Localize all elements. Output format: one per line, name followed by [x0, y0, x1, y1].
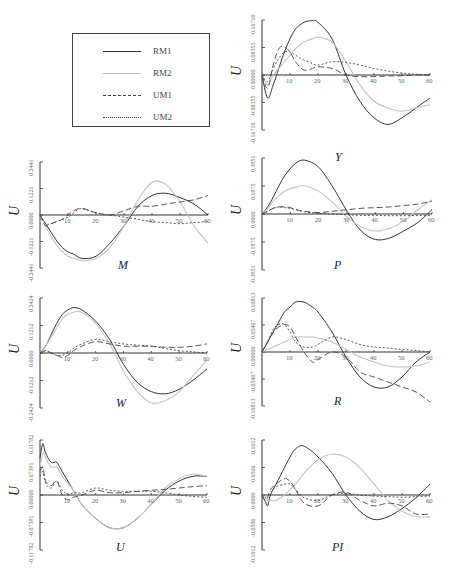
x-tick-label: 50: [398, 497, 405, 504]
x-tick-label: 10: [286, 354, 293, 361]
y-tick-label: -0.1012: [250, 546, 256, 565]
series-rm1: [262, 301, 430, 388]
x-tick-label: 20: [92, 217, 99, 224]
series-rm2: [262, 454, 430, 517]
x-tick-label: 30: [343, 216, 350, 223]
x-tick-label: 40: [370, 77, 377, 84]
y-tick-label: 0.1975: [250, 184, 256, 201]
panel-m: [40, 162, 208, 268]
x-tick-label: 40: [148, 217, 155, 224]
x-tick-label: 60: [203, 355, 210, 362]
y-tick-label: 0.11782: [28, 435, 34, 454]
y-tick-label: -0.16710: [250, 123, 256, 145]
x-tick-label: 50: [398, 354, 405, 361]
y-tick-label: -0.1212: [28, 376, 34, 395]
x-tick-label: 40: [147, 355, 154, 362]
panel-p: [262, 158, 432, 270]
y-tick-label: -0.11782: [28, 543, 34, 564]
y-axis-label: U: [229, 66, 245, 76]
x-tick-label: 20: [315, 216, 322, 223]
x-tick-label: 60: [426, 354, 433, 361]
x-tick-label: 50: [398, 77, 405, 84]
x-tick-label: 50: [176, 217, 183, 224]
series-um1: [262, 325, 430, 402]
series-rm1: [262, 20, 430, 124]
x-tick-label: 60: [426, 497, 433, 504]
panel-title: PI: [332, 540, 343, 555]
y-tick-label: -0.1975: [250, 238, 256, 257]
y-tick-label: -0.10813: [250, 399, 256, 421]
y-axis-label: U: [7, 486, 23, 496]
y-tick-label: 0.16710: [250, 15, 256, 35]
chart-canvas: [0, 0, 451, 574]
y-tick-label: 0.3951: [250, 156, 256, 173]
x-tick-label: 20: [92, 497, 99, 504]
panel-y: [262, 20, 430, 130]
x-tick-label: 30: [120, 217, 127, 224]
x-tick-label: 10: [286, 216, 293, 223]
x-tick-label: 50: [175, 355, 182, 362]
panel-title: Y: [335, 150, 342, 165]
x-tick-label: 60: [203, 497, 210, 504]
x-tick-label: 40: [370, 497, 377, 504]
y-axis-label: U: [7, 344, 23, 354]
y-tick-label: 0.10813: [250, 293, 256, 313]
series-rm1: [40, 444, 207, 529]
y-tick-label: 0.0000: [28, 213, 34, 230]
y-tick-label: 0.0000: [250, 212, 256, 229]
x-tick-label: 10: [286, 497, 293, 504]
x-tick-label: 40: [147, 497, 154, 504]
y-tick-label: 0.05407: [250, 320, 256, 340]
y-axis-label: U: [229, 486, 245, 496]
x-tick-label: 10: [64, 497, 71, 504]
x-tick-label: 10: [64, 355, 71, 362]
series-um2: [262, 324, 430, 352]
y-axis-label: U: [229, 205, 245, 215]
series-rm2: [40, 453, 207, 529]
y-tick-label: 0.00000: [250, 70, 256, 90]
y-tick-label: -0.1221: [28, 237, 34, 256]
x-tick-label: 20: [314, 77, 321, 84]
x-tick-label: 30: [120, 355, 127, 362]
x-tick-label: 30: [342, 497, 349, 504]
y-tick-label: 0.0506: [250, 465, 256, 482]
y-tick-label: 0.2441: [28, 160, 34, 177]
x-tick-label: 60: [426, 77, 433, 84]
x-tick-label: 50: [400, 216, 407, 223]
x-tick-label: 30: [120, 497, 127, 504]
panel-title: U: [116, 540, 125, 555]
panel-w: [40, 298, 207, 408]
y-tick-label: 0.1221: [28, 186, 34, 203]
x-tick-label: 60: [204, 217, 211, 224]
y-tick-label: 0.00000: [250, 347, 256, 367]
x-tick-label: 20: [92, 355, 99, 362]
series-rm1: [262, 160, 432, 240]
x-tick-label: 10: [64, 217, 71, 224]
x-tick-label: 60: [428, 216, 435, 223]
x-tick-label: 40: [371, 216, 378, 223]
panel-title: W: [116, 396, 126, 411]
panel-title: R: [334, 394, 341, 409]
panel-r: [262, 298, 430, 406]
x-tick-label: 40: [370, 354, 377, 361]
y-tick-label: 0.08355: [250, 42, 256, 62]
panel-title: M: [118, 258, 128, 273]
series-rm2: [262, 185, 432, 231]
panel-title: P: [334, 258, 341, 273]
x-tick-label: 30: [342, 354, 349, 361]
y-tick-label: -0.2424: [28, 404, 34, 423]
panel-u: [40, 440, 207, 550]
x-tick-label: 20: [314, 497, 321, 504]
y-tick-label: -0.0506: [250, 518, 256, 537]
y-tick-label: 0.07391: [28, 462, 34, 482]
x-tick-label: 20: [314, 354, 321, 361]
y-tick-label: -0.2441: [28, 264, 34, 283]
y-tick-label: 0.2424: [28, 296, 34, 313]
y-axis-label: U: [7, 206, 23, 216]
y-tick-label: 0.0000: [250, 493, 256, 510]
y-tick-label: 0.1212: [28, 323, 34, 340]
y-tick-label: -0.3951: [250, 266, 256, 285]
y-tick-label: -0.07391: [28, 515, 34, 537]
y-tick-label: 0.0000: [28, 351, 34, 368]
x-tick-label: 30: [342, 77, 349, 84]
